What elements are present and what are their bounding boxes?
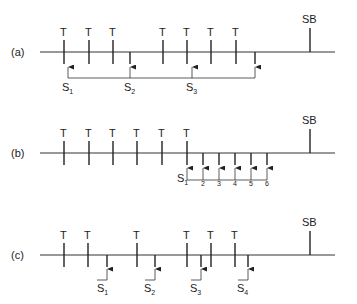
sample-label-s1: S1 bbox=[62, 81, 73, 95]
panel-b: (b) T T T T T T bbox=[11, 114, 335, 187]
sample-ticks bbox=[203, 153, 267, 165]
t-labels: T T T T T T T bbox=[60, 26, 239, 38]
sample-label-6: 6 bbox=[265, 180, 269, 187]
sample-label-s2: S2 bbox=[124, 81, 135, 95]
t-label: T bbox=[183, 229, 190, 241]
sb-label: SB bbox=[302, 13, 317, 25]
timeline-diagram: (a) T T T T T T T bbox=[0, 0, 357, 304]
panel-b-label: (b) bbox=[11, 147, 24, 159]
sample-labels: S1 S2 S3 S4 bbox=[97, 282, 248, 296]
panel-a: (a) T T T T T T T bbox=[11, 13, 335, 95]
t-label: T bbox=[207, 229, 214, 241]
sample-arrows bbox=[97, 269, 248, 280]
t-labels: T T T T T T bbox=[60, 127, 190, 139]
t-label: T bbox=[109, 127, 116, 139]
t-label: T bbox=[60, 127, 67, 139]
sample-label-s4: S4 bbox=[237, 282, 248, 296]
sample-label-s1: S1 bbox=[97, 282, 108, 296]
t-label: T bbox=[109, 26, 116, 38]
panel-c: (c) T T T T T T bbox=[11, 216, 335, 296]
t-label: T bbox=[231, 229, 238, 241]
t-label: T bbox=[158, 127, 165, 139]
t-label: T bbox=[159, 26, 166, 38]
sample-label-3: 3 bbox=[217, 180, 221, 187]
t-label: T bbox=[85, 26, 92, 38]
sample-label-s2: S2 bbox=[144, 282, 155, 296]
t-label: T bbox=[207, 26, 214, 38]
sample-label-5: 5 bbox=[249, 180, 253, 187]
t-label: T bbox=[133, 229, 140, 241]
t-label: T bbox=[133, 127, 140, 139]
t-label: T bbox=[183, 26, 190, 38]
sample-label-s3: S3 bbox=[186, 81, 197, 95]
sample-bracket bbox=[187, 168, 267, 180]
t-labels: T T T T T T bbox=[60, 229, 238, 241]
t-label: T bbox=[232, 26, 239, 38]
sample-labels: S1 2 3 4 5 6 bbox=[177, 172, 269, 187]
sample-bracket bbox=[68, 67, 255, 78]
sample-label-4: 4 bbox=[233, 180, 237, 187]
t-label: T bbox=[60, 26, 67, 38]
t-label: T bbox=[183, 127, 190, 139]
sample-label-s3: S3 bbox=[190, 282, 201, 296]
t-label: T bbox=[60, 229, 67, 241]
panel-a-label: (a) bbox=[11, 46, 24, 58]
sample-ticks bbox=[107, 255, 248, 267]
sb-label: SB bbox=[302, 216, 317, 228]
sample-label-2: 2 bbox=[201, 180, 205, 187]
t-label: T bbox=[84, 229, 91, 241]
panel-c-label: (c) bbox=[11, 249, 24, 261]
sb-label: SB bbox=[302, 114, 317, 126]
sample-labels: S1 S2 S3 bbox=[62, 81, 197, 95]
t-label: T bbox=[85, 127, 92, 139]
